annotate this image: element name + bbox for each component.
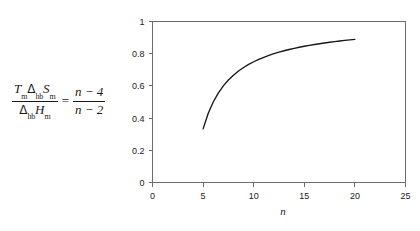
x-axis-ticks <box>153 183 406 187</box>
x-tick-label: 25 <box>400 191 410 201</box>
x-axis-tick-labels: 0510152025 <box>150 191 411 201</box>
y-tick-label: 0 <box>139 178 144 188</box>
x-tick-label: 20 <box>350 191 360 201</box>
equation-rhs-fraction: n − 4 n − 2 <box>73 85 105 116</box>
equation-rhs-denominator: n − 2 <box>73 102 105 117</box>
x-tick-label: 10 <box>249 191 259 201</box>
equation-lhs-denominator: ΔhbHm <box>17 102 52 120</box>
x-tick-label: 5 <box>201 191 206 201</box>
equation-equals-sign: = <box>62 93 69 109</box>
y-tick-label: 0.2 <box>132 146 145 156</box>
equation-lhs-fraction: TmΔhbSm ΔhbHm <box>12 82 58 119</box>
equation-rhs-numerator: n − 4 <box>73 85 105 101</box>
equation-lhs-numerator: TmΔhbSm <box>12 82 58 101</box>
y-axis-ticks <box>149 22 153 183</box>
plot-frame <box>153 22 406 183</box>
y-tick-label: 1 <box>139 17 144 27</box>
y-tick-label: 0.8 <box>132 49 145 59</box>
data-curve-n-minus-4-over-n-minus-2 <box>203 39 355 129</box>
x-tick-label: 0 <box>150 191 155 201</box>
equation-block: TmΔhbSm ΔhbHm = n − 4 n − 2 <box>12 76 134 126</box>
x-axis-title: n <box>280 205 286 217</box>
x-tick-label: 15 <box>299 191 309 201</box>
